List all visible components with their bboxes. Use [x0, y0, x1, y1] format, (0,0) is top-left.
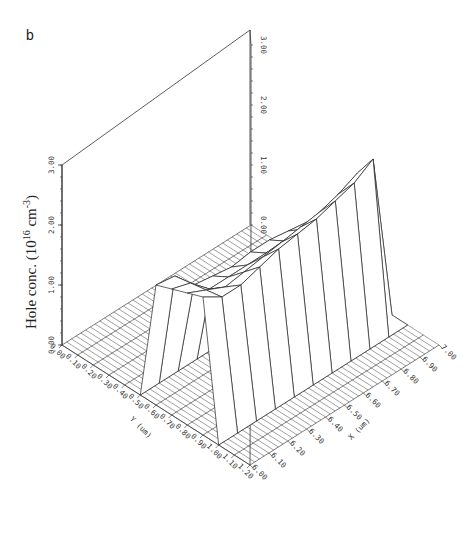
surface-plot: 0.001.002.003.000.001.002.003.000.000.10… [0, 0, 474, 534]
svg-text:0.00: 0.00 [259, 216, 268, 235]
svg-text:6.70: 6.70 [382, 379, 401, 398]
svg-text:1.00: 1.00 [47, 275, 56, 294]
svg-text:1.00: 1.00 [259, 156, 268, 175]
svg-text:6.20: 6.20 [288, 439, 307, 458]
svg-text:6.40: 6.40 [326, 415, 345, 434]
surface-mesh [140, 159, 407, 445]
svg-text:6.10: 6.10 [269, 451, 288, 470]
svg-text:6.80: 6.80 [401, 367, 420, 386]
svg-text:6.30: 6.30 [307, 427, 326, 446]
svg-text:2.00: 2.00 [259, 96, 268, 115]
svg-text:Y (um): Y (um) [128, 414, 154, 440]
svg-text:2.00: 2.00 [47, 215, 56, 234]
svg-text:6.90: 6.90 [420, 355, 439, 374]
svg-text:6.60: 6.60 [364, 391, 383, 410]
svg-text:7.00: 7.00 [439, 343, 458, 362]
svg-text:3.00: 3.00 [47, 155, 56, 174]
svg-text:3.00: 3.00 [259, 36, 268, 55]
